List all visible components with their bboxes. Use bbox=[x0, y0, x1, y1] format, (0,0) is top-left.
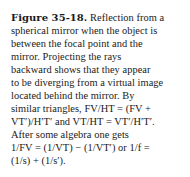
caption-line-3: between the focal point and the bbox=[11, 37, 189, 50]
caption-line-2: spherical mirror when the object is bbox=[11, 24, 189, 37]
caption-line-9: VT′)/H′T′ and VT/HT = VT′/H′T′. bbox=[11, 115, 189, 128]
caption-line-1: Figure 35-18. Reflection from a bbox=[11, 11, 189, 24]
figure-caption: Figure 35-18. Reflection from a spherica… bbox=[11, 11, 189, 167]
caption-line-6: to be diverging from a virtual image bbox=[11, 76, 189, 89]
caption-line-5: backward shows that they appear bbox=[11, 63, 189, 76]
caption-line-7: located behind the mirror. By bbox=[11, 89, 189, 102]
caption-line-12: (1/s) + (1/s′). bbox=[11, 154, 189, 167]
caption-line-4: mirror. Projecting the rays bbox=[11, 50, 189, 63]
figure-label: Figure 35-18. bbox=[11, 12, 87, 23]
caption-line-10: After some algebra one gets bbox=[11, 128, 189, 141]
caption-line-11: 1/FV = (1/VT) − (1/VT′) or 1/f = bbox=[11, 141, 189, 154]
caption-line-8: similar triangles, FV/HT = (FV + bbox=[11, 102, 189, 115]
